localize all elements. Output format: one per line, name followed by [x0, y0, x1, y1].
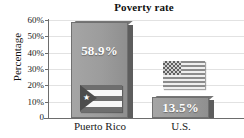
chart-figure: Poverty rate Percentage 60% 50% 40% 30% …	[0, 0, 244, 138]
us-canton-stars	[163, 61, 181, 75]
y-tick-label-10: 10%	[18, 97, 44, 107]
y-tick-mark-20	[45, 85, 48, 86]
y-tick-mark-50	[45, 36, 48, 37]
united-states-flag-icon	[163, 61, 205, 89]
y-tick-label-20: 20%	[18, 80, 44, 90]
y-tick-mark-40	[45, 53, 48, 54]
us-stripe-7	[163, 85, 205, 87]
x-tick-label-puerto-rico: Puerto Rico	[62, 120, 138, 132]
y-tick-mark-60	[45, 20, 48, 21]
us-stripe-5	[163, 77, 205, 79]
bar-value-label-us: 13.5%	[152, 100, 209, 116]
puerto-rico-flag-icon: ★	[80, 85, 122, 112]
x-tick-label-us: U.S.	[150, 120, 212, 132]
bar-us[interactable]: 13.5%	[152, 96, 209, 118]
us-stripe-6	[163, 81, 205, 83]
y-tick-label-40: 40%	[18, 48, 44, 58]
y-tick-label-0: 0	[18, 112, 44, 122]
y-tick-mark-30	[45, 69, 48, 70]
pr-star-icon: ★	[83, 94, 90, 102]
bar-side-face-puerto-rico	[128, 25, 133, 118]
y-tick-label-30: 30%	[18, 64, 44, 74]
y-tick-label-50: 50%	[18, 31, 44, 41]
bar-side-face-us	[209, 100, 214, 118]
y-tick-mark-10	[45, 102, 48, 103]
y-axis-line	[48, 19, 49, 119]
chart-title: Poverty rate	[44, 1, 244, 13]
x-axis-line	[44, 118, 244, 119]
bar-value-label-puerto-rico: 58.9%	[71, 43, 128, 59]
y-tick-label-60: 60%	[18, 15, 44, 25]
